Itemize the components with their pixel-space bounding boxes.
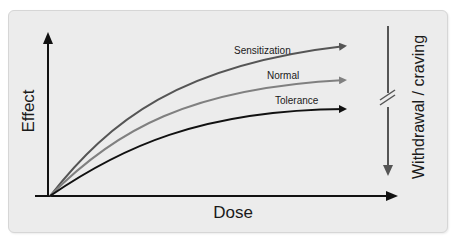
tolerance-curve — [50, 109, 345, 196]
y-axis-arrow-icon — [43, 32, 53, 44]
x-axis-label: Dose — [213, 203, 253, 222]
dose-effect-diagram: Sensitization Normal Tolerance Dose Effe… — [0, 0, 451, 241]
sensitization-label: Sensitization — [234, 45, 291, 56]
y-axis — [43, 32, 53, 197]
withdrawal-craving-label: Withdrawal / craving — [410, 35, 427, 179]
down-arrow-icon — [383, 165, 393, 176]
withdrawal-indicator — [380, 26, 395, 176]
sensitization-curve — [50, 46, 345, 196]
y-axis-label: Effect — [19, 89, 38, 132]
x-axis — [35, 191, 398, 201]
tolerance-label: Tolerance — [275, 95, 319, 106]
x-axis-arrow-icon — [386, 191, 398, 201]
normal-label: Normal — [267, 70, 299, 81]
